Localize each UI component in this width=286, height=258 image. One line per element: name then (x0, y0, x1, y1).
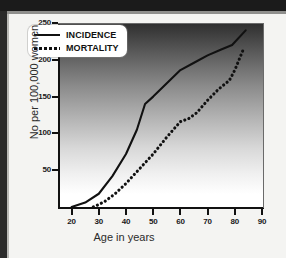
series-line-mortality (93, 50, 243, 207)
left-dark-bar (0, 11, 7, 258)
top-dark-band (0, 0, 286, 11)
legend-item-incidence: INCIDENCE (34, 29, 119, 40)
chart-legend: INCIDENCE MORTALITY (28, 25, 127, 57)
legend-label-mortality: MORTALITY (66, 43, 119, 53)
y-axis-title: No per 100,000 women (28, 7, 40, 157)
legend-label-incidence: INCIDENCE (66, 30, 116, 40)
figure-page: 50100150200250 2030405060708090 INCIDENC… (0, 0, 286, 258)
legend-item-mortality: MORTALITY (34, 42, 119, 53)
chart-figure: 50100150200250 2030405060708090 INCIDENC… (9, 14, 286, 258)
x-axis-title: Age in years (49, 231, 199, 243)
